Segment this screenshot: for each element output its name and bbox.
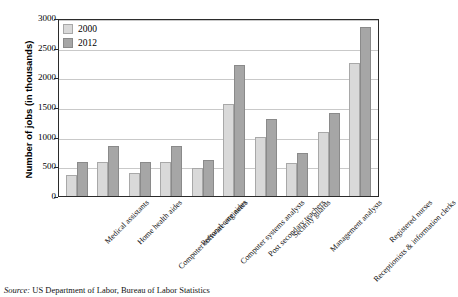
bar-2012 (108, 146, 119, 196)
bar-group (97, 20, 119, 196)
y-axis-tick-label: 1500 (4, 103, 56, 112)
y-axis-tick-label: 2000 (4, 73, 56, 82)
y-axis-tick-labels: 050010001500200025003000 (0, 0, 56, 216)
bar-group (255, 20, 277, 196)
source-text: US Department of Labor, Bureau of Labor … (32, 285, 210, 295)
bar-2000 (97, 162, 108, 196)
y-axis-tick-label: 2500 (4, 44, 56, 53)
chart-legend: 20002012 (61, 19, 97, 50)
bar-group (318, 20, 340, 196)
bar-group (223, 20, 245, 196)
y-axis-tick-label: 3000 (4, 14, 56, 23)
bar-group (129, 20, 151, 196)
bar-2000 (255, 137, 266, 196)
bar-2012 (171, 146, 182, 196)
bar-2000 (160, 162, 171, 196)
bar-2012 (329, 113, 340, 196)
bar-2012 (203, 160, 214, 196)
bar-2000 (66, 175, 77, 196)
legend-entry: 2012 (63, 36, 97, 49)
bar-2012 (140, 162, 151, 196)
bar-group (349, 20, 371, 196)
x-axis-category-labels: Medical assistantsHome health aidesCompu… (58, 198, 379, 278)
source-note: Source: US Department of Labor, Bureau o… (4, 285, 210, 295)
legend-swatch-2000 (63, 24, 73, 34)
bar-2000 (318, 132, 329, 196)
bar-series-container (59, 20, 378, 196)
legend-label: 2012 (78, 38, 97, 48)
legend-entry: 2000 (63, 22, 97, 35)
bar-2012 (360, 27, 371, 196)
bar-2000 (192, 168, 203, 196)
bar-group (192, 20, 214, 196)
x-axis-label: Personal care aides (199, 198, 249, 248)
y-axis-tick-label: 0 (4, 192, 56, 201)
bar-2012 (266, 119, 277, 196)
source-prefix: Source: (4, 285, 30, 295)
bar-2012 (77, 162, 88, 196)
bar-2012 (297, 153, 308, 196)
bar-group (286, 20, 308, 196)
x-axis-label: Management analysts (328, 198, 384, 254)
legend-swatch-2012 (63, 38, 73, 48)
plot-area (58, 19, 379, 197)
legend-label: 2000 (78, 24, 97, 34)
bar-2000 (129, 173, 140, 196)
bar-2000 (349, 63, 360, 197)
bar-2012 (234, 65, 245, 196)
y-axis-tick-label: 1000 (4, 133, 56, 142)
bar-2000 (286, 163, 297, 196)
bar-group (160, 20, 182, 196)
y-axis-tick-label: 500 (4, 162, 56, 171)
bar-2000 (223, 104, 234, 196)
